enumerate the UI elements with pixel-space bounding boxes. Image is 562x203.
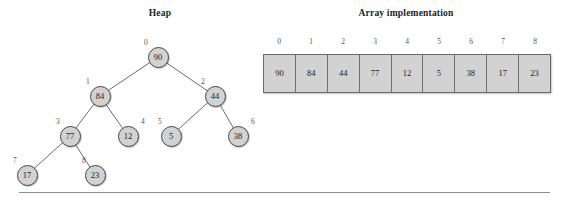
tree-node-value-2: 44 [211, 92, 220, 101]
array-index-4: 4 [391, 36, 423, 50]
array-index-7: 7 [487, 36, 519, 50]
array-cell-value-6: 38 [467, 69, 476, 78]
array-cell-6[interactable]: 38 [455, 55, 487, 92]
tree-node-3[interactable]: 77 [60, 126, 81, 147]
array-index-3: 3 [359, 36, 391, 50]
tree-node-5[interactable]: 5 [161, 126, 182, 147]
tree-node-value-6: 38 [234, 132, 243, 141]
array-cell-4[interactable]: 12 [392, 55, 424, 92]
array-cell-value-3: 77 [371, 69, 380, 78]
tree-node-index-0: 0 [144, 39, 148, 47]
array-index-5: 5 [423, 36, 455, 50]
tree-node-4[interactable]: 12 [118, 126, 139, 147]
array-cell-5[interactable]: 5 [423, 55, 455, 92]
array-cell-value-1: 84 [307, 69, 316, 78]
array-index-0: 0 [263, 36, 295, 50]
tree-node-0[interactable]: 90 [148, 47, 169, 68]
array-cell-value-0: 90 [275, 69, 284, 78]
tree-node-8[interactable]: 23 [85, 165, 106, 186]
tree-node-value-3: 77 [66, 132, 75, 141]
tree-node-1[interactable]: 84 [90, 86, 111, 107]
tree-node-index-8: 8 [82, 157, 86, 165]
array-cell-value-5: 5 [437, 69, 441, 78]
tree-node-value-0: 90 [154, 53, 163, 62]
array-panel: Array implementation 0 1 2 3 4 5 6 7 8 9… [263, 36, 553, 100]
tree-node-value-4: 12 [124, 132, 133, 141]
array-cell-value-2: 44 [339, 69, 348, 78]
array-cell-1[interactable]: 84 [296, 55, 328, 92]
array-index-8: 8 [519, 36, 551, 50]
figure-container: Heap 0 90 1 84 2 44 [0, 0, 562, 203]
tree-node-index-2: 2 [201, 78, 205, 86]
tree-node-6[interactable]: 38 [228, 126, 249, 147]
tree-node-value-1: 84 [96, 92, 105, 101]
array-cell-7[interactable]: 17 [487, 55, 519, 92]
tree-edge-lines [27, 57, 238, 175]
array-index-1: 1 [295, 36, 327, 50]
array-index-2: 2 [327, 36, 359, 50]
tree-node-value-7: 17 [23, 171, 32, 180]
tree-node-7[interactable]: 17 [17, 165, 38, 186]
tree-edges-group [0, 0, 270, 203]
tree-node-index-5: 5 [158, 118, 162, 126]
array-box: 90 84 44 77 12 5 38 17 2 [263, 54, 551, 93]
tree-node-index-1: 1 [86, 78, 90, 86]
tree-node-value-8: 23 [91, 171, 100, 180]
array-cell-0[interactable]: 90 [264, 55, 296, 92]
tree-node-index-7: 7 [13, 157, 17, 165]
tree-node-index-3: 3 [56, 118, 60, 126]
array-panel-title: Array implementation [260, 8, 552, 18]
array-cell-3[interactable]: 77 [360, 55, 392, 92]
heap-panel: Heap 0 90 1 84 2 44 [0, 0, 270, 203]
array-index-row: 0 1 2 3 4 5 6 7 8 [263, 36, 551, 50]
tree-node-index-4: 4 [141, 118, 145, 126]
array-cell-8[interactable]: 23 [519, 55, 550, 92]
tree-node-value-5: 5 [169, 132, 173, 141]
array-cell-value-8: 23 [530, 69, 539, 78]
array-cell-value-7: 17 [498, 69, 507, 78]
bottom-divider [19, 192, 550, 193]
array-cell-2[interactable]: 44 [328, 55, 360, 92]
tree-node-index-6: 6 [251, 118, 255, 126]
array-index-6: 6 [455, 36, 487, 50]
tree-node-2[interactable]: 44 [205, 86, 226, 107]
array-cell-value-4: 12 [403, 69, 412, 78]
